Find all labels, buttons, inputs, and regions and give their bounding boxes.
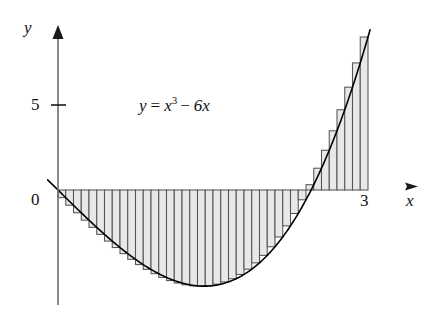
- riemann-rectangle: [267, 190, 275, 247]
- riemann-rectangle: [298, 190, 306, 200]
- riemann-rectangle: [182, 190, 190, 285]
- x-axis-arrowhead: [405, 183, 418, 191]
- riemann-rectangle: [345, 87, 353, 190]
- riemann-sum-figure: y x 5 0 3 y=x3−6x: [0, 0, 434, 309]
- riemann-rectangle: [283, 190, 291, 226]
- riemann-rectangles-group: [58, 37, 368, 286]
- riemann-rectangle: [260, 190, 268, 255]
- equation-base: x: [164, 96, 172, 115]
- riemann-rectangle: [143, 190, 151, 269]
- equation-minus: −: [180, 96, 190, 115]
- equation-equals: =: [151, 96, 161, 115]
- riemann-rectangle: [128, 190, 136, 259]
- riemann-rectangle: [213, 190, 221, 284]
- riemann-rectangle: [167, 190, 175, 281]
- riemann-rectangle: [244, 190, 252, 269]
- y-tick-label-5: 5: [31, 95, 40, 115]
- x-tick-label-3: 3: [360, 191, 369, 211]
- riemann-rectangle: [291, 190, 299, 213]
- y-axis-arrowhead: [53, 25, 64, 39]
- riemann-rectangle: [112, 190, 120, 248]
- y-axis-label: y: [24, 18, 32, 38]
- riemann-rectangle: [221, 190, 229, 282]
- riemann-rectangle: [252, 190, 260, 263]
- riemann-rectangle: [136, 190, 144, 265]
- equation-linear-term: 6x: [194, 96, 210, 115]
- equation-exponent: 3: [172, 94, 178, 106]
- riemann-rectangle: [151, 190, 159, 274]
- riemann-rectangle: [120, 190, 128, 254]
- riemann-rectangle: [205, 190, 213, 286]
- riemann-rectangle: [275, 190, 283, 237]
- riemann-rectangle: [236, 190, 244, 274]
- riemann-rectangle: [190, 190, 198, 286]
- function-equation-label: y=x3−6x: [139, 94, 210, 116]
- riemann-rectangle: [66, 190, 74, 205]
- function-plot-svg: [0, 0, 434, 309]
- origin-label-0: 0: [31, 190, 40, 210]
- riemann-rectangle: [198, 190, 206, 286]
- x-axis-label: x: [406, 191, 414, 211]
- riemann-rectangle: [159, 190, 167, 277]
- riemann-rectangle: [105, 190, 113, 241]
- riemann-rectangle: [229, 190, 237, 279]
- riemann-rectangle: [174, 190, 182, 283]
- equation-lhs: y: [139, 96, 147, 115]
- riemann-rectangle: [322, 150, 330, 190]
